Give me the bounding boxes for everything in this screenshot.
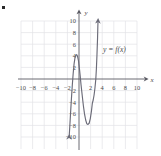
svg-text:−6: −6 xyxy=(41,84,48,91)
svg-text:6: 6 xyxy=(112,84,115,91)
function-graph-figure: −10 −8 −6 −4 −2 2 4 6 8 10 10 8 6 4 2 −2… xyxy=(0,0,161,156)
x-axis-label: x xyxy=(150,76,155,84)
y-axis-label: y xyxy=(84,9,89,17)
svg-text:6: 6 xyxy=(73,41,76,48)
svg-text:4: 4 xyxy=(101,84,105,91)
svg-text:10: 10 xyxy=(70,17,76,24)
svg-text:−4: −4 xyxy=(52,84,60,91)
svg-text:−8: −8 xyxy=(29,84,36,91)
svg-text:−10: −10 xyxy=(16,84,26,91)
svg-text:−10: −10 xyxy=(66,133,76,140)
svg-text:8: 8 xyxy=(124,84,127,91)
svg-text:10: 10 xyxy=(134,84,140,91)
svg-text:2: 2 xyxy=(89,84,92,91)
x-tick-labels: −10 −8 −6 −4 −2 2 4 6 8 10 xyxy=(16,84,140,91)
graph-canvas: −10 −8 −6 −4 −2 2 4 6 8 10 10 8 6 4 2 −2… xyxy=(0,0,161,156)
corner-speck-artifact xyxy=(2,6,5,9)
svg-text:8: 8 xyxy=(73,29,76,36)
svg-text:−4: −4 xyxy=(69,99,77,106)
curve-label: y = f(x) xyxy=(102,45,126,54)
